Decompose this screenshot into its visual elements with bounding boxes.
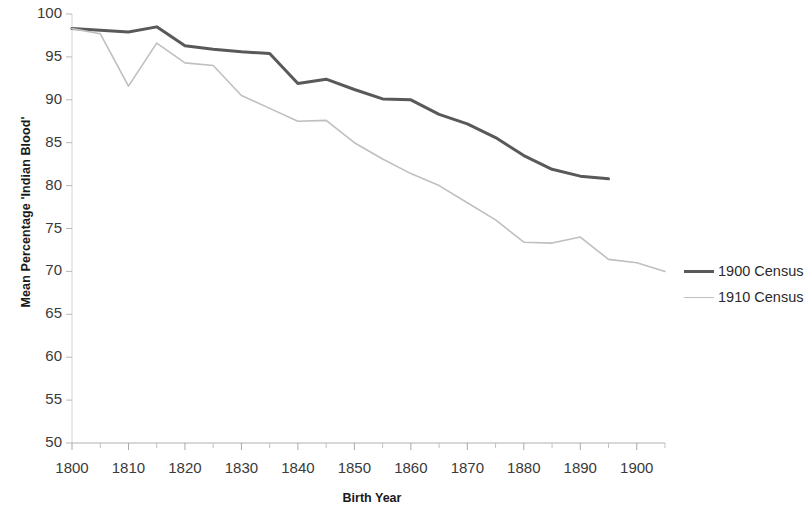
x-axis-tick-label: 1890 — [550, 459, 610, 476]
x-axis-tick-label: 1870 — [437, 459, 497, 476]
x-axis-tick-label: 1810 — [98, 459, 158, 476]
x-axis-tick-label: 1820 — [155, 459, 215, 476]
legend-label-1900: 1900 Census — [718, 263, 803, 279]
series-layer — [72, 27, 665, 272]
x-axis-tick-label: 1840 — [268, 459, 328, 476]
legend-label-1910: 1910 Census — [718, 289, 803, 305]
x-axis-tick-label: 1800 — [42, 459, 102, 476]
y-axis-tick-label: 95 — [20, 47, 62, 64]
x-axis-tick-label: 1860 — [381, 459, 441, 476]
y-axis-tick-label: 100 — [20, 4, 62, 21]
series-line-1910-census — [72, 29, 665, 272]
x-axis-tick-label: 1830 — [211, 459, 271, 476]
legend-item-1900-census: 1900 Census — [684, 258, 803, 284]
x-axis-title: Birth Year — [302, 491, 442, 505]
y-axis-title: Mean Percentage 'Indian Blood' — [19, 82, 33, 342]
chart-figure: 50556065707580859095100 1800181018201830… — [0, 0, 810, 515]
x-axis-tick-label: 1850 — [324, 459, 384, 476]
x-axis-tick-label: 1900 — [607, 459, 667, 476]
y-axis-tick-label: 60 — [20, 347, 62, 364]
x-axis-tick-label: 1880 — [494, 459, 554, 476]
legend-line-swatch-1900 — [684, 270, 714, 273]
legend-item-1910-census: 1910 Census — [684, 284, 803, 310]
y-axis-tick-label: 55 — [20, 390, 62, 407]
y-axis-tick-label: 50 — [20, 433, 62, 450]
legend-line-swatch-1910 — [684, 297, 714, 298]
chart-legend: 1900 Census 1910 Census — [684, 258, 803, 310]
axes-layer — [66, 14, 665, 450]
